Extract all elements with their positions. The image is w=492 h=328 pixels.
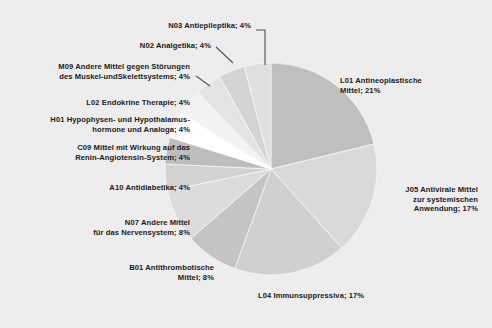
pie-chart-figure: N03 Antiepileptika; 4% N02 Analgetika; 4… (0, 0, 492, 328)
slice-label-n07: N07 Andere Mittel für das Nervensystem; … (46, 218, 190, 237)
leader-line-m09 (196, 76, 210, 86)
slice-label-l01: L01 Antineoplastische Mittel; 21% (340, 76, 470, 95)
slice-label-c09: C09 Mittel mit Wirkung auf das Renin-Ang… (22, 143, 190, 162)
slice-label-l02: L02 Endokrine Therapie; 4% (40, 98, 190, 108)
slice-label-n03: N03 Antiepileptika; 4% (86, 21, 251, 31)
slice-label-m09: M09 Andere Mittel gegen Störungen des Mu… (28, 62, 190, 81)
plot-area: N03 Antiepileptika; 4% N02 Analgetika; 4… (0, 0, 492, 328)
slice-label-l04: L04 Immunsuppressiva; 17% (258, 291, 398, 301)
slice-label-j05: J05 Antivirale Mittel zur systemischen A… (352, 185, 478, 214)
slice-label-h01: H01 Hypophysen- und Hypothalamus- hormon… (10, 115, 190, 134)
slice-label-n02: N02 Analgetika; 4% (66, 41, 211, 51)
slice-label-a10: A10 Antidiabetika; 4% (40, 183, 190, 193)
slice-label-b01: B01 Antithrombotische Mittel; 8% (74, 263, 214, 282)
leader-line-n02 (216, 47, 233, 63)
leader-line-n03 (256, 30, 265, 65)
